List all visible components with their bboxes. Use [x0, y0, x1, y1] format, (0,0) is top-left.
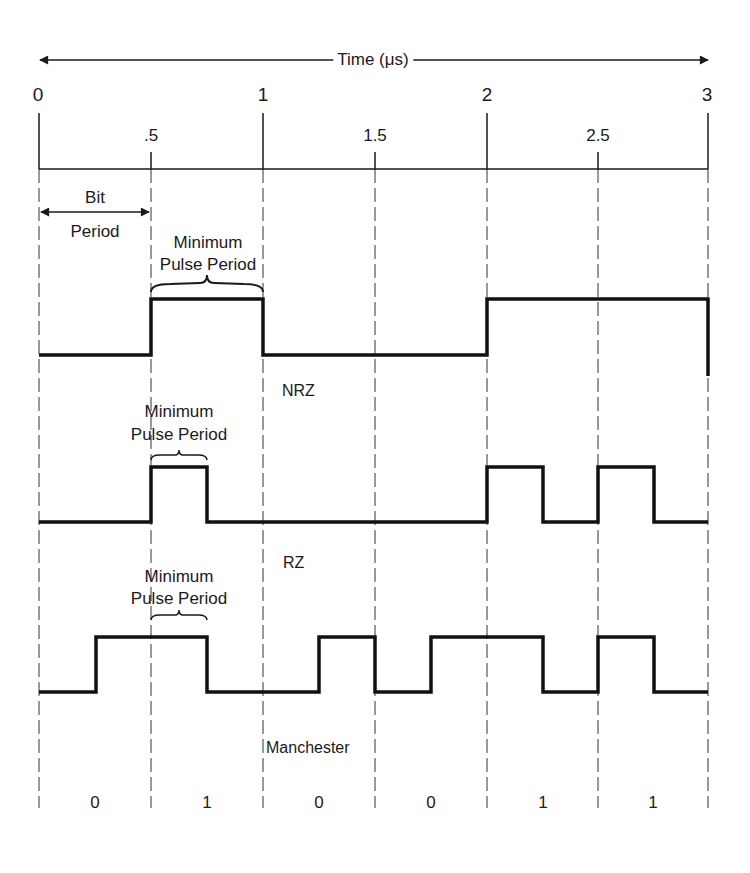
tick-label-1-5: 1.5: [363, 127, 387, 144]
bit-value-3: 0: [314, 794, 323, 811]
manchester-brace: [151, 610, 207, 620]
nrz-label: NRZ: [282, 383, 315, 399]
bit-value-5: 1: [538, 794, 547, 811]
nrz-min-pulse-line2: Pulse Period: [160, 254, 256, 275]
tick-label-1: 1: [258, 85, 269, 104]
nrz-waveform: [39, 299, 708, 376]
rz-min-pulse-line1: Minimum: [145, 401, 214, 422]
time-axis-title: Time (μs): [333, 51, 413, 68]
gridlines: [39, 169, 708, 808]
bit-value-6: 1: [648, 794, 657, 811]
tick-label-3: 3: [702, 85, 713, 104]
nrz-brace: [151, 275, 263, 292]
manchester-label: Manchester: [266, 740, 350, 756]
manchester-min-pulse-line2: Pulse Period: [131, 588, 227, 609]
manchester-waveform: [39, 637, 708, 692]
rz-brace: [151, 450, 207, 460]
bit-value-4: 0: [426, 794, 435, 811]
bit-period-label-bottom: Period: [70, 221, 119, 242]
rz-waveform: [39, 467, 708, 522]
tick-label-2-5: 2.5: [586, 127, 610, 144]
tick-label-0-5: .5: [144, 127, 158, 144]
rz-label: RZ: [283, 555, 304, 571]
bit-value-2: 1: [202, 794, 211, 811]
nrz-min-pulse-line1: Minimum: [174, 232, 243, 253]
bit-value-1: 0: [90, 794, 99, 811]
tick-label-0: 0: [33, 85, 44, 104]
bit-period-label-top: Bit: [85, 187, 105, 208]
tick-label-2: 2: [482, 85, 493, 104]
manchester-min-pulse-line1: Minimum: [145, 566, 214, 587]
rz-min-pulse-line2: Pulse Period: [131, 424, 227, 445]
